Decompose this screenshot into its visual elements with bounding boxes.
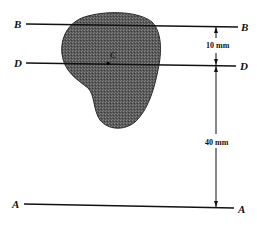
dimension-label-10mm: 10 mm bbox=[206, 41, 230, 50]
axis-a-line bbox=[24, 204, 234, 208]
diagram-canvas: B B D D A A C 10 mm 40 mm bbox=[0, 0, 257, 226]
shaded-area bbox=[62, 13, 161, 129]
axis-b-left-label: B bbox=[13, 18, 21, 30]
arrowhead-down-icon bbox=[214, 59, 218, 65]
arrowhead-up-icon bbox=[214, 27, 218, 33]
axis-d-left-label: D bbox=[13, 57, 22, 69]
arrowhead-down-icon bbox=[214, 201, 218, 207]
axis-a-right-label: A bbox=[237, 203, 245, 215]
dimension-label-40mm: 40 mm bbox=[205, 138, 229, 147]
centroid-dot bbox=[106, 62, 110, 66]
axis-a-left-label: A bbox=[11, 198, 19, 210]
axis-d-right-label: D bbox=[239, 60, 248, 72]
axis-b-right-label: B bbox=[240, 21, 248, 33]
centroid-label: C bbox=[110, 50, 117, 60]
